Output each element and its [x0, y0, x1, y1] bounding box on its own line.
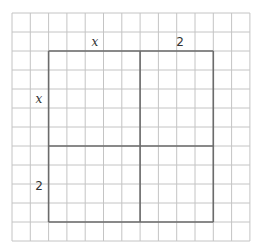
label-top-x: x — [92, 35, 99, 49]
label-left-x: x — [36, 92, 43, 106]
area-model-square — [49, 51, 214, 222]
background-grid — [12, 13, 250, 241]
area-model-diagram: x 2 x 2 — [0, 0, 263, 252]
label-left-2: 2 — [35, 179, 43, 193]
label-top-2: 2 — [176, 35, 184, 49]
